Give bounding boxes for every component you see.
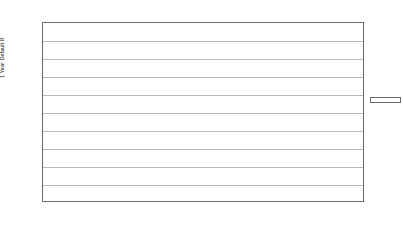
default-rate-line-chart: 1 Year Default R [0,0,403,229]
plot-area [42,22,364,202]
series-lines [43,23,363,201]
y-axis-title: 1 Year Default R [0,0,5,78]
chart-legend [370,97,401,103]
